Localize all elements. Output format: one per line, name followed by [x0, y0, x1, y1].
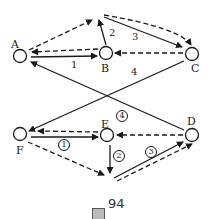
node-label-a: A: [11, 39, 19, 50]
edge-e-f-dashed: [38, 131, 98, 132]
edge-label-4: 4: [131, 67, 137, 77]
node-b: [100, 47, 113, 60]
edge-label-circled-4: 4: [116, 110, 128, 122]
node-label-f: F: [16, 145, 24, 156]
node-label-d: D: [187, 116, 196, 127]
diagram-canvas: [0, 0, 212, 219]
edge-a-b-solid: [31, 56, 97, 57]
edge-a-apex-dashed: [29, 20, 92, 50]
edge-label-2: 2: [109, 28, 115, 38]
node-f: [14, 128, 27, 141]
caption-number: 94: [108, 196, 125, 211]
node-label-c: C: [191, 63, 199, 74]
node-c: [186, 48, 199, 61]
edge-label-3: 3: [132, 32, 138, 42]
node-a: [14, 50, 27, 63]
edge-label-circled-3: 3: [145, 146, 157, 158]
edge-label-circled-2: 2: [113, 150, 125, 162]
node-label-b: B: [101, 63, 109, 74]
edge-apex-c-dashed: [104, 15, 191, 45]
figure-caption: 圖94: [92, 196, 125, 219]
edge-b-a-dashed: [32, 49, 98, 52]
edge-b-apex-solid: [99, 20, 106, 45]
edge-label-circled-1: 1: [58, 139, 70, 151]
node-label-e: E: [101, 119, 109, 130]
caption-glyph: 圖: [92, 208, 105, 219]
edge-label-1: 1: [71, 60, 77, 70]
node-d: [186, 129, 199, 142]
